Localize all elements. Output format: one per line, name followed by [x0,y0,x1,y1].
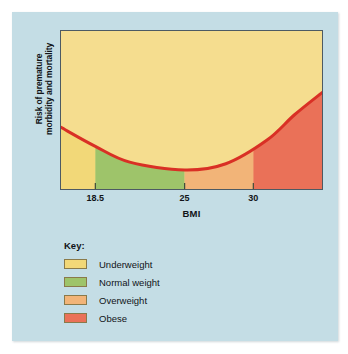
x-tick-label: 30 [248,193,258,203]
legend: Key: UnderweightNormal weightOverweightO… [64,240,264,328]
figure-root: Risk of premature morbidity and mortalit… [0,0,348,354]
bmi-risk-chart: Risk of premature morbidity and mortalit… [12,12,338,232]
legend-title: Key: [64,240,264,251]
x-axis-tick-labels: 18.52530 [60,193,323,207]
legend-items: UnderweightNormal weightOverweightObese [64,256,264,326]
x-axis-title: BMI [60,208,323,219]
x-tick-label: 25 [180,193,190,203]
legend-swatch [64,295,87,305]
legend-item: Obese [64,310,264,326]
legend-item: Overweight [64,292,264,308]
figure-card: Risk of premature morbidity and mortalit… [12,12,338,341]
y-axis-label-line-1: Risk of premature [34,54,44,125]
legend-item: Underweight [64,256,264,272]
y-axis-label: Risk of premature morbidity and mortalit… [27,19,61,159]
legend-item-label: Underweight [99,259,152,270]
x-tick-label: 18.5 [87,193,105,203]
legend-item-label: Obese [99,313,127,324]
legend-swatch [64,259,87,269]
legend-swatch [64,277,87,287]
y-axis-label-line-2: morbidity and mortality [44,43,54,135]
legend-item: Normal weight [64,274,264,290]
plot-svg [61,31,322,189]
legend-item-label: Normal weight [99,277,160,288]
legend-swatch [64,313,87,323]
legend-item-label: Overweight [99,295,147,306]
plot-area [60,30,323,190]
